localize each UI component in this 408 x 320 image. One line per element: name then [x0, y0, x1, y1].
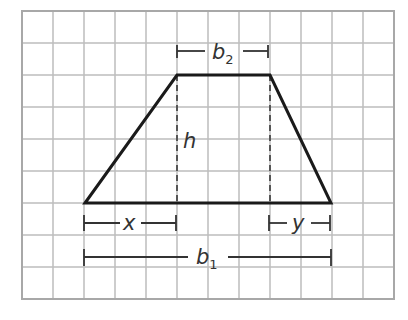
- x-label: x: [122, 211, 136, 235]
- y-label: y: [291, 211, 305, 235]
- h-label: h: [183, 129, 196, 153]
- b2-label: b2: [212, 40, 234, 67]
- trapezoid-diagram: b2 h x y b1: [0, 0, 408, 320]
- b1-label: b1: [196, 245, 218, 272]
